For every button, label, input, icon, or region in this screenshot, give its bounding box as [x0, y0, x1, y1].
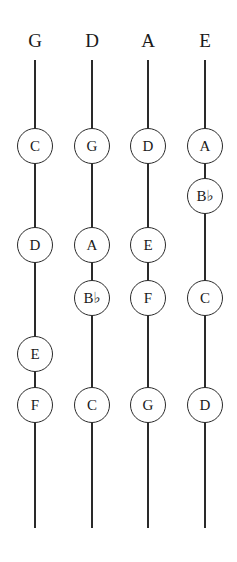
note-circle: F — [17, 387, 53, 423]
note-circle: C — [187, 280, 223, 316]
string-label-e: E — [190, 29, 220, 53]
note-circle: E — [130, 227, 166, 263]
note-circle: A — [187, 128, 223, 164]
note-circle: E — [17, 336, 53, 372]
string-label-d: D — [77, 29, 107, 53]
note-circle: C — [74, 387, 110, 423]
string-label-a: A — [133, 29, 163, 53]
note-circle: B♭ — [187, 178, 223, 214]
note-circle: B♭ — [74, 280, 110, 316]
note-circle: F — [130, 280, 166, 316]
note-circle: D — [187, 387, 223, 423]
string-label-g: G — [20, 29, 50, 53]
note-circle: G — [74, 128, 110, 164]
note-circle: C — [17, 128, 53, 164]
note-circle: A — [74, 227, 110, 263]
note-circle: D — [130, 128, 166, 164]
note-circle: D — [17, 227, 53, 263]
note-circle: G — [130, 387, 166, 423]
